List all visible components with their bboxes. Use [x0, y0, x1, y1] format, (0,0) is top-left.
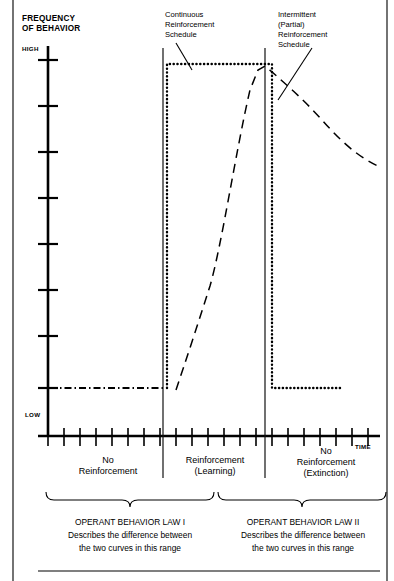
zone-no-reinforcement-line2: Reinforcement	[58, 466, 158, 477]
figure-canvas: FREQUENCY OF BEHAVIOR HIGH LOW TIME Cont…	[0, 0, 394, 581]
continuous-callout-line1: Continuous	[165, 11, 203, 20]
y-axis-high-label: HIGH	[22, 45, 39, 52]
law-1-title: OPERANT BEHAVIOR LAW I	[32, 517, 228, 528]
zone-reinforcement-line2: (Learning)	[167, 466, 263, 477]
zone-reinforcement-line1: Reinforcement	[167, 455, 263, 466]
law-1-line2: Describes the difference between	[32, 530, 228, 541]
brace-law-1	[46, 492, 214, 507]
zone-no-reinforcement-line1: No	[58, 455, 158, 466]
zone-extinction-line3: (Extinction)	[270, 468, 382, 479]
zone-extinction-line1: No	[270, 446, 382, 457]
law-1-line3: the two curves in this range	[32, 543, 228, 554]
x-axis-ticks	[48, 428, 368, 446]
law-2-line3: the two curves in this range	[205, 543, 394, 554]
continuous-callout-line2: Reinforcement	[165, 21, 214, 30]
continuous-callout-leader	[176, 43, 192, 70]
intermittent-callout-line3: Reinforcement	[278, 31, 327, 40]
intermittent-callout-line4: Schedule	[278, 41, 310, 50]
intermittent-reinforcement-curve	[176, 66, 378, 390]
zone-extinction-line2: Reinforcement	[270, 457, 382, 468]
y-axis-title-line2: OF BEHAVIOR	[22, 24, 80, 34]
y-axis-title-line1: FREQUENCY	[22, 14, 75, 24]
y-axis-low-label: LOW	[25, 411, 40, 418]
intermittent-callout-line2: (Partial)	[278, 21, 305, 30]
intermittent-callout-line1: Intermittent	[278, 11, 316, 20]
operant-conditioning-diagram	[0, 0, 394, 581]
brace-law-2	[218, 492, 386, 507]
continuous-callout-line3: Schedule	[165, 31, 197, 40]
law-2-title: OPERANT BEHAVIOR LAW II	[205, 517, 394, 528]
law-2-line2: Describes the difference between	[205, 530, 394, 541]
